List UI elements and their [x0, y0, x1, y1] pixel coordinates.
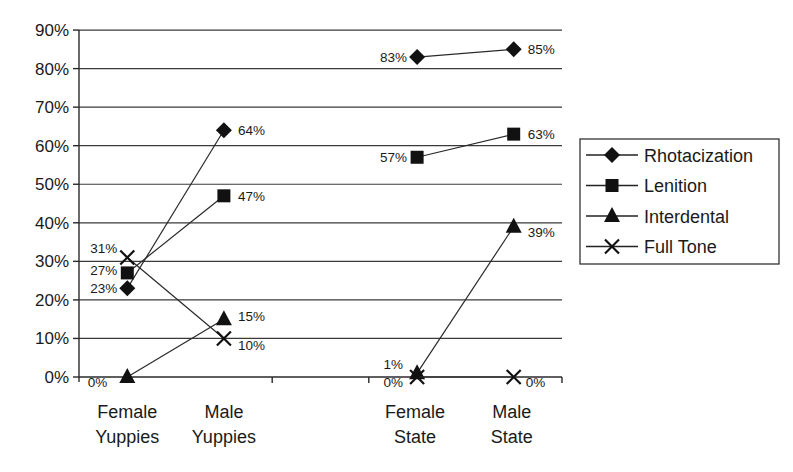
x-category-label-line1: Male — [204, 402, 243, 422]
x-category-label-line1: Male — [492, 402, 531, 422]
diamond-marker-icon — [216, 122, 232, 138]
data-label: 31% — [90, 241, 117, 256]
legend-label: Lenition — [644, 176, 707, 196]
legend-label: Full Tone — [644, 237, 717, 257]
legend-label: Rhotacization — [644, 146, 753, 166]
y-tick-label: 60% — [35, 137, 69, 156]
series-line — [417, 49, 514, 57]
y-tick-label: 20% — [35, 291, 69, 310]
line-chart: 0%10%20%30%40%50%60%70%80%90% FemaleYupp… — [0, 0, 793, 472]
x-category-label-line2: Yuppies — [95, 427, 159, 447]
series-rhotacization — [119, 41, 521, 296]
x-category-label-line1: Female — [385, 402, 445, 422]
series-full-tone — [120, 250, 520, 384]
series-line — [127, 130, 224, 288]
triangle-marker-icon — [216, 310, 232, 325]
x-category-label-line1: Female — [97, 402, 157, 422]
square-marker-icon — [411, 151, 424, 164]
y-tick-label: 0% — [44, 368, 69, 387]
y-tick-label: 90% — [35, 21, 69, 40]
data-label: 0% — [88, 375, 108, 390]
data-label: 27% — [90, 263, 117, 278]
diamond-marker-icon — [409, 49, 425, 65]
y-axis-tick-labels: 0%10%20%30%40%50%60%70%80%90% — [35, 21, 69, 387]
series-line — [127, 257, 224, 338]
data-label: 83% — [380, 50, 407, 65]
square-marker-icon — [507, 128, 520, 141]
data-label: 57% — [380, 150, 407, 165]
x-axis-category-labels: FemaleYuppiesMaleYuppiesFemaleStateMaleS… — [95, 402, 532, 447]
legend-label: Interdental — [644, 207, 729, 227]
legend: RhotacizationLenitionInterdentalFull Ton… — [580, 139, 779, 264]
data-label: 0% — [384, 375, 404, 390]
y-tick-label: 80% — [35, 60, 69, 79]
x-category-label-line2: State — [491, 427, 533, 447]
data-label: 0% — [526, 375, 546, 390]
data-label: 47% — [238, 189, 265, 204]
triangle-marker-icon — [506, 218, 522, 233]
square-marker-icon — [606, 179, 619, 192]
diamond-marker-icon — [119, 280, 135, 296]
data-series — [119, 41, 521, 384]
x-category-label-line2: State — [394, 427, 436, 447]
square-marker-icon — [217, 189, 230, 202]
data-labels: 23%64%83%85%27%47%57%63%0%15%1%39%31%10%… — [88, 42, 555, 390]
y-tick-label: 70% — [35, 98, 69, 117]
diamond-marker-icon — [506, 41, 522, 57]
x-category-label-line2: Yuppies — [192, 427, 256, 447]
x-marker-icon — [120, 250, 134, 264]
data-label: 1% — [384, 357, 404, 372]
data-label: 64% — [238, 123, 265, 138]
y-tick-label: 30% — [35, 252, 69, 271]
y-tick-label: 40% — [35, 214, 69, 233]
triangle-marker-icon — [119, 368, 135, 383]
y-tick-label: 50% — [35, 175, 69, 194]
data-label: 85% — [528, 42, 555, 57]
data-label: 63% — [528, 127, 555, 142]
data-label: 15% — [238, 309, 265, 324]
data-label: 23% — [90, 281, 117, 296]
gridlines — [79, 30, 562, 338]
y-tick-label: 10% — [35, 329, 69, 348]
legend-item-full-tone: Full Tone — [586, 237, 717, 257]
series-line — [127, 319, 224, 377]
data-label: 39% — [528, 225, 555, 240]
square-marker-icon — [121, 266, 134, 279]
data-label: 10% — [238, 338, 265, 353]
series-lenition — [121, 128, 520, 280]
axes — [73, 30, 562, 383]
